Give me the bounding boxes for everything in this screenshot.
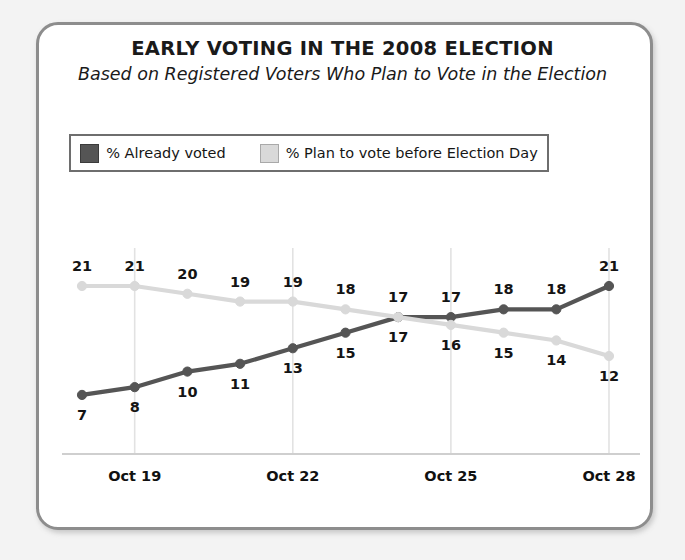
legend-item-already-voted[interactable]: % Already voted xyxy=(80,144,225,163)
legend-item-plan-to-vote[interactable]: % Plan to vote before Election Day xyxy=(260,144,538,163)
legend-label-plan-to-vote: % Plan to vote before Election Day xyxy=(286,145,538,161)
legend-swatch-icon-already-voted xyxy=(80,144,99,163)
legend-label-already-voted: % Already voted xyxy=(106,145,225,161)
page-title: EARLY VOTING IN THE 2008 ELECTION xyxy=(0,38,685,60)
chart-subtitle: Based on Registered Voters Who Plan to V… xyxy=(0,64,685,85)
chart-legend: % Already voted % Plan to vote before El… xyxy=(69,134,549,172)
chart-card xyxy=(36,22,653,530)
legend-swatch-icon-plan-to-vote xyxy=(260,144,279,163)
title-block: EARLY VOTING IN THE 2008 ELECTION Based … xyxy=(0,38,685,85)
